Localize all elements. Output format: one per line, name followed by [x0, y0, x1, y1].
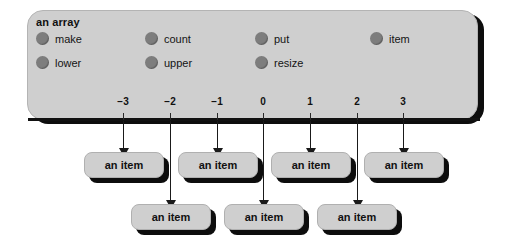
- axis-tick-label: −1: [207, 96, 227, 107]
- item-box-label: an item: [105, 159, 144, 171]
- bullet-icon: [255, 56, 268, 69]
- arrow-stem: [263, 121, 264, 200]
- item-box: an item: [364, 152, 444, 178]
- item-box-face: an item: [317, 204, 397, 230]
- arrow-stem: [403, 121, 404, 148]
- diagram-canvas: an array makecountputitemlowerupperresiz…: [0, 0, 510, 250]
- bullet-icon: [36, 32, 49, 45]
- axis-tick-label: −2: [160, 96, 180, 107]
- axis-baseline: [28, 118, 480, 121]
- item-box: an item: [271, 152, 351, 178]
- axis-tick-mark: [123, 113, 124, 120]
- axis-tick-mark: [357, 113, 358, 120]
- item-box: an item: [131, 204, 211, 230]
- axis-tick-label: −3: [113, 96, 133, 107]
- item-box: an item: [84, 152, 164, 178]
- feature-item-count: count: [145, 32, 191, 45]
- bullet-icon: [370, 32, 383, 45]
- feature-item-make: make: [36, 32, 82, 45]
- item-box-face: an item: [131, 204, 211, 230]
- arrow-stem: [310, 121, 311, 148]
- item-box-face: an item: [224, 204, 304, 230]
- item-box-label: an item: [245, 211, 284, 223]
- item-box: an item: [317, 204, 397, 230]
- feature-label: make: [55, 33, 82, 45]
- item-box-label: an item: [199, 159, 238, 171]
- arrow-stem: [123, 121, 124, 148]
- bullet-icon: [36, 56, 49, 69]
- bullet-icon: [255, 32, 268, 45]
- arrow-stem: [170, 121, 171, 200]
- axis-tick-label: 1: [300, 96, 320, 107]
- item-box: an item: [224, 204, 304, 230]
- bullet-icon: [145, 56, 158, 69]
- axis-tick-label: 0: [253, 96, 273, 107]
- feature-label: resize: [274, 57, 303, 69]
- item-box-label: an item: [338, 211, 377, 223]
- feature-label: put: [274, 33, 289, 45]
- item-box-face: an item: [364, 152, 444, 178]
- arrow-stem: [357, 121, 358, 200]
- feature-item-lower: lower: [36, 56, 81, 69]
- feature-label: item: [389, 33, 410, 45]
- axis-tick-label: 3: [393, 96, 413, 107]
- item-box-face: an item: [178, 152, 258, 178]
- item-box-label: an item: [292, 159, 331, 171]
- axis-tick-mark: [170, 113, 171, 120]
- arrow-stem: [217, 121, 218, 148]
- item-box-face: an item: [84, 152, 164, 178]
- feature-item-put: put: [255, 32, 289, 45]
- axis-tick-mark: [403, 113, 404, 120]
- axis-tick-mark: [310, 113, 311, 120]
- item-box: an item: [178, 152, 258, 178]
- item-box-label: an item: [385, 159, 424, 171]
- array-panel-title: an array: [36, 16, 80, 28]
- feature-item-upper: upper: [145, 56, 192, 69]
- bullet-icon: [145, 32, 158, 45]
- item-box-label: an item: [152, 211, 191, 223]
- feature-label: count: [164, 33, 191, 45]
- axis-tick-mark: [217, 113, 218, 120]
- feature-item-resize: resize: [255, 56, 303, 69]
- feature-label: upper: [164, 57, 192, 69]
- feature-item-item: item: [370, 32, 410, 45]
- item-box-face: an item: [271, 152, 351, 178]
- axis-tick-mark: [263, 113, 264, 120]
- feature-label: lower: [55, 57, 81, 69]
- axis-tick-label: 2: [347, 96, 367, 107]
